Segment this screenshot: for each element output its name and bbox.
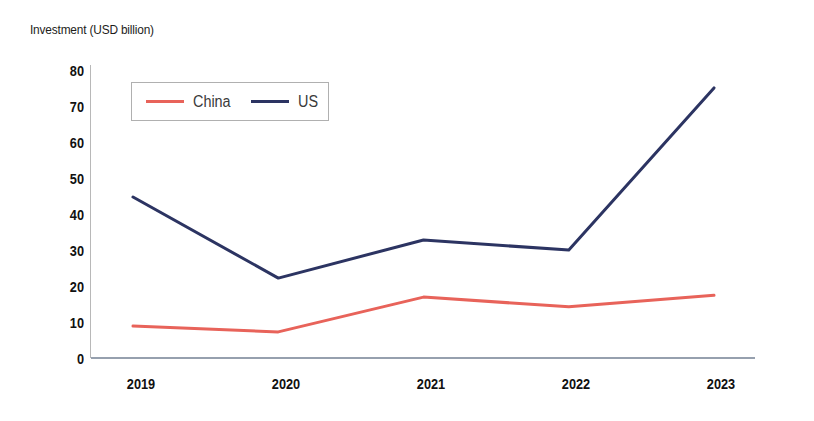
x-tick-2022: 2022 xyxy=(538,376,615,391)
y-tick-70: 70 xyxy=(47,99,84,114)
chart-legend: China US xyxy=(131,82,329,121)
y-tick-40: 40 xyxy=(47,207,84,222)
y-tick-30: 30 xyxy=(47,243,84,258)
legend-swatch-us-icon xyxy=(251,100,289,103)
series-line-china xyxy=(133,295,714,332)
y-tick-0: 0 xyxy=(47,351,84,366)
line-chart: Investment (USD billion) 80 70 60 50 40 … xyxy=(0,0,814,421)
x-tick-2020: 2020 xyxy=(248,376,325,391)
zero-baseline xyxy=(91,357,755,359)
y-tick-60: 60 xyxy=(47,135,84,150)
y-tick-80: 80 xyxy=(47,63,84,78)
legend-entry-china: China xyxy=(146,93,235,111)
legend-swatch-china-icon xyxy=(146,100,184,103)
x-tick-2019: 2019 xyxy=(103,376,180,391)
y-tick-20: 20 xyxy=(47,279,84,294)
y-axis-tick-labels: 80 70 60 50 40 30 20 10 0 xyxy=(0,0,84,421)
legend-label-china: China xyxy=(193,93,231,111)
y-axis-line xyxy=(90,65,91,358)
legend-label-us: US xyxy=(298,93,318,111)
y-tick-10: 10 xyxy=(47,315,84,330)
legend-entry-us: US xyxy=(251,93,320,111)
y-tick-50: 50 xyxy=(47,171,84,186)
x-tick-2023: 2023 xyxy=(683,376,760,391)
x-tick-2021: 2021 xyxy=(393,376,470,391)
